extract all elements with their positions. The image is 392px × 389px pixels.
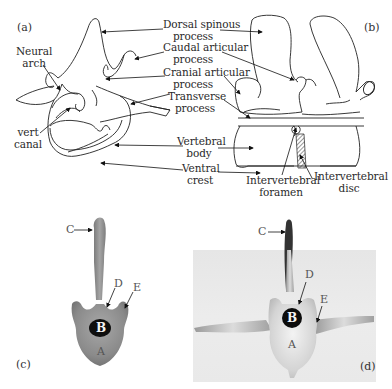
- panel-c-letter-B: B: [96, 321, 106, 335]
- label-transverse-process: Transverse process: [168, 90, 222, 114]
- leader-vertebral-body-a: [115, 145, 183, 146]
- panel-d-letter-A: A: [288, 338, 296, 351]
- label-caudal-articular-process: Caudal articular process: [163, 41, 223, 65]
- panel-c-letter-C: C: [66, 223, 74, 236]
- leader-ventral-crest-b: [218, 172, 260, 173]
- panel-d-letter-D: D: [305, 268, 314, 281]
- leader-dorsal-spinous-a: [102, 29, 163, 32]
- panel-c-letter-A: A: [97, 345, 105, 358]
- leader-caudal-articular-a: [135, 52, 164, 59]
- panel-a-tag: (a): [17, 21, 32, 34]
- panel-d-letter-E: E: [320, 293, 328, 306]
- panel-c-letter-D: D: [114, 277, 123, 290]
- leader-transverse-a: [131, 94, 170, 104]
- leader-dorsal-spinous-b: [220, 30, 262, 32]
- panel-d-vertebra-photo: [194, 220, 374, 379]
- label-vertebral-body: Vertebral body: [177, 135, 221, 159]
- panel-c-tag: (c): [16, 358, 31, 371]
- label-dorsal-spinous-process: Dorsal spinous process: [163, 18, 223, 42]
- label-cranial-articular-process: Cranial articular process: [163, 66, 223, 90]
- panel-a-leader-lines: [40, 29, 183, 170]
- label-ventral-crest: Ventral crest: [182, 162, 218, 186]
- leader-cranial-articular-a: [106, 76, 165, 79]
- label-vert-canal: vert canal: [14, 126, 42, 150]
- leader-c-D: [107, 288, 115, 307]
- panel-c-vertebra-photo: [72, 218, 129, 366]
- panel-d-tag: (d): [360, 360, 376, 373]
- label-intervertebral-foramen: Intervertebral foramen: [246, 174, 316, 198]
- leader-intervertebral-foramen: [282, 128, 296, 175]
- leader-cranial-articular-b: [224, 76, 240, 94]
- panel-b-vertebrae-drawing: [234, 15, 377, 167]
- leader-c-E: [125, 292, 133, 308]
- label-intervertebral-disc: Intervertebral disc: [314, 170, 384, 194]
- leader-ventral-crest-a: [101, 163, 183, 170]
- panel-c-letter-E: E: [133, 281, 141, 294]
- panel-d-letter-B: B: [287, 311, 297, 325]
- vertebra-anatomy-figure: (a) (b) (c) (d) Neural arch vert canal D…: [0, 0, 392, 389]
- panel-d-letter-C: C: [258, 225, 266, 238]
- label-neural-arch: Neural arch: [16, 45, 52, 69]
- panel-b-tag: (b): [364, 21, 380, 34]
